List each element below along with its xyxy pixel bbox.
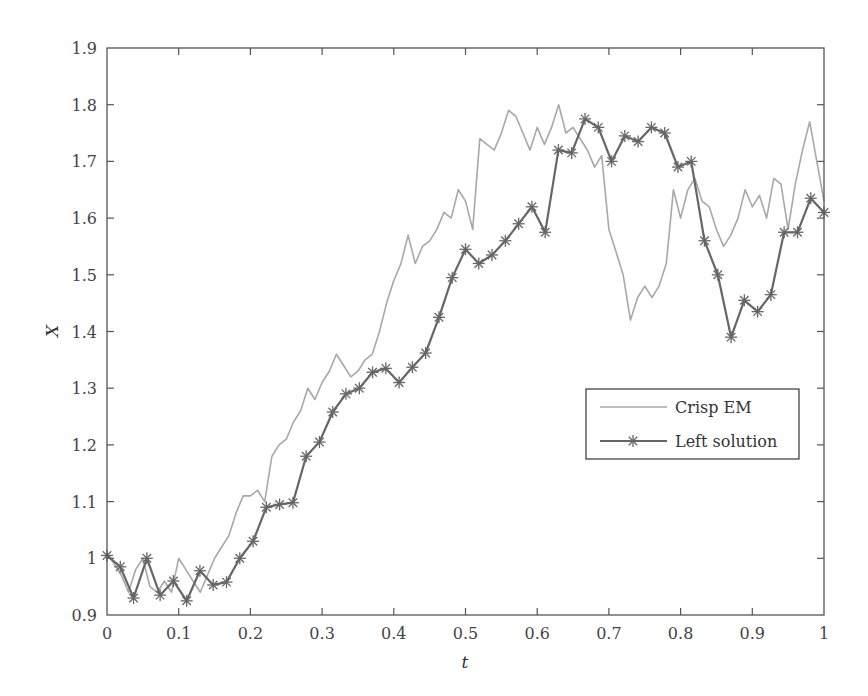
asterisk-marker-icon xyxy=(632,136,644,148)
line-chart: 00.10.20.30.40.50.60.70.80.910.911.11.21… xyxy=(0,0,868,696)
asterisk-marker-icon xyxy=(712,269,724,281)
asterisk-marker-icon xyxy=(433,311,445,323)
asterisk-marker-icon xyxy=(313,436,325,448)
x-tick-label: 0.2 xyxy=(238,624,263,643)
y-tick-label: 1.1 xyxy=(72,493,97,512)
asterisk-marker-icon xyxy=(725,331,737,343)
asterisk-marker-icon xyxy=(765,289,777,301)
y-tick-label: 1.3 xyxy=(72,379,97,398)
x-tick-label: 0.8 xyxy=(668,624,693,643)
asterisk-marker-icon xyxy=(128,592,140,604)
asterisk-marker-icon xyxy=(406,361,418,373)
legend-label-left-solution: Left solution xyxy=(675,432,777,451)
asterisk-marker-icon xyxy=(380,362,392,374)
y-tick-label: 1.8 xyxy=(72,96,97,115)
plot-frame xyxy=(107,48,824,615)
asterisk-marker-icon xyxy=(606,155,618,167)
y-tick-label: 1.4 xyxy=(72,323,97,342)
tick-labels: 00.10.20.30.40.50.60.70.80.910.911.11.21… xyxy=(72,39,830,643)
asterisk-marker-icon xyxy=(579,113,591,125)
asterisk-marker-icon xyxy=(393,377,405,389)
asterisk-marker-icon xyxy=(738,294,750,306)
asterisk-marker-icon xyxy=(114,561,126,573)
asterisk-marker-icon xyxy=(619,130,631,142)
x-tick-label: 0.5 xyxy=(453,624,478,643)
x-tick-label: 0.7 xyxy=(596,624,621,643)
asterisk-marker-icon xyxy=(698,235,710,247)
series-line-crisp-em xyxy=(107,105,824,593)
x-tick-label: 0.9 xyxy=(740,624,765,643)
asterisk-marker-icon xyxy=(207,579,219,591)
asterisk-marker-icon xyxy=(645,121,657,133)
asterisk-marker-icon xyxy=(592,121,604,133)
legend: Crisp EM Left solution xyxy=(586,389,799,459)
x-tick-label: 0 xyxy=(102,624,112,643)
asterisk-marker-icon xyxy=(367,366,379,378)
asterisk-marker-icon xyxy=(260,501,272,513)
asterisk-marker-icon xyxy=(539,226,551,238)
asterisk-marker-icon xyxy=(805,192,817,204)
asterisk-marker-icon xyxy=(353,382,365,394)
asterisk-marker-icon xyxy=(154,589,166,601)
x-tick-label: 1 xyxy=(819,624,829,643)
asterisk-marker-icon xyxy=(499,235,511,247)
asterisk-marker-icon xyxy=(566,147,578,159)
asterisk-marker-icon xyxy=(446,272,458,284)
asterisk-marker-icon xyxy=(287,497,299,509)
asterisk-marker-icon xyxy=(340,388,352,400)
asterisk-marker-icon xyxy=(486,249,498,261)
x-tick-label: 0.3 xyxy=(309,624,334,643)
axis-ticks xyxy=(107,48,824,615)
asterisk-marker-icon xyxy=(778,226,790,238)
asterisk-marker-icon xyxy=(420,347,432,359)
asterisk-marker-icon xyxy=(181,595,193,607)
asterisk-marker-icon xyxy=(513,218,525,230)
asterisk-marker-icon xyxy=(460,243,472,255)
asterisk-marker-icon xyxy=(247,535,259,547)
x-tick-label: 0.1 xyxy=(166,624,191,643)
asterisk-marker-icon xyxy=(234,552,246,564)
y-tick-label: 1.5 xyxy=(72,266,97,285)
asterisk-marker-icon xyxy=(194,565,206,577)
asterisk-marker-icon xyxy=(752,306,764,318)
y-tick-label: 1.2 xyxy=(72,436,97,455)
series-line-left-solution xyxy=(107,119,824,601)
asterisk-marker-icon xyxy=(526,201,538,213)
plot-series xyxy=(101,105,830,607)
y-tick-label: 0.9 xyxy=(72,606,97,625)
asterisk-marker-icon xyxy=(327,406,339,418)
asterisk-marker-icon xyxy=(672,161,684,173)
asterisk-marker-icon xyxy=(300,450,312,462)
asterisk-marker-icon xyxy=(141,552,153,564)
x-tick-label: 0.4 xyxy=(381,624,406,643)
y-tick-label: 1.9 xyxy=(72,39,97,58)
asterisk-marker-icon xyxy=(685,155,697,167)
x-tick-label: 0.6 xyxy=(524,624,549,643)
asterisk-marker-icon xyxy=(221,576,233,588)
x-axis-label: t xyxy=(462,652,469,672)
asterisk-marker-icon xyxy=(627,435,639,447)
asterisk-marker-icon xyxy=(627,435,639,447)
asterisk-marker-icon xyxy=(473,257,485,269)
y-tick-label: 1.7 xyxy=(72,152,97,171)
y-axis-label: X xyxy=(42,324,62,339)
asterisk-marker-icon xyxy=(274,498,286,510)
y-tick-label: 1.6 xyxy=(72,209,97,228)
legend-label-crisp-em: Crisp EM xyxy=(675,398,752,417)
y-tick-label: 1 xyxy=(87,549,97,568)
asterisk-marker-icon xyxy=(791,226,803,238)
asterisk-marker-icon xyxy=(659,127,671,139)
asterisk-marker-icon xyxy=(167,575,179,587)
asterisk-marker-icon xyxy=(552,144,564,156)
